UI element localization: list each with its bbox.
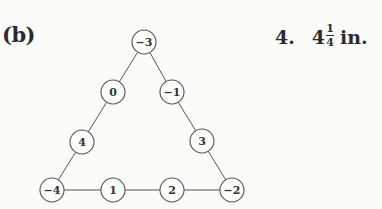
- node-label: −4: [44, 184, 61, 197]
- node-top: −3: [132, 30, 156, 54]
- node-label: 2: [168, 184, 176, 197]
- node-right-upper: −1: [160, 80, 184, 104]
- node-bottom-mid-left: 1: [101, 178, 125, 202]
- node-label: 4: [78, 136, 86, 149]
- edge-line: [119, 52, 137, 82]
- edge-line: [58, 152, 75, 180]
- node-bottom-left: −4: [40, 178, 64, 202]
- node-label: −3: [136, 36, 153, 49]
- node-label: −2: [224, 184, 241, 197]
- node-left-lower: 4: [70, 130, 94, 154]
- edge-line: [88, 102, 106, 132]
- fraction-denominator: 4: [326, 37, 334, 48]
- edge-line: [208, 151, 225, 180]
- magic-triangle-figure: −30−143−412−2: [0, 0, 260, 209]
- node-left-upper: 0: [101, 80, 125, 104]
- node-label: 0: [109, 86, 117, 99]
- node-bottom-mid-right: 2: [160, 178, 184, 202]
- node-label: 1: [109, 184, 117, 197]
- triangle-diagram: −30−143−412−2: [0, 0, 260, 209]
- answer-number: 4.: [275, 26, 295, 48]
- answer-unit: in.: [340, 26, 368, 48]
- answer-fraction: 1 4: [326, 23, 334, 48]
- edge-line: [150, 52, 166, 81]
- answer: 4. 4 1 4 in.: [275, 24, 368, 49]
- node-label: −1: [164, 86, 181, 99]
- node-label: 3: [198, 135, 206, 148]
- node-right-lower: 3: [190, 129, 214, 153]
- answer-whole: 4: [312, 26, 325, 48]
- node-bottom-right: −2: [220, 178, 244, 202]
- edge-line: [178, 102, 195, 131]
- fraction-numerator: 1: [326, 23, 334, 34]
